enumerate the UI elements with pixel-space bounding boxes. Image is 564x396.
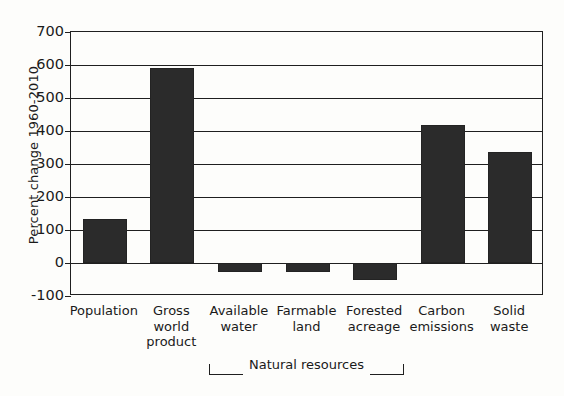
x-tick-label: Farmable land [269, 303, 345, 334]
y-tick-label: 700 [2, 23, 64, 39]
bar [353, 263, 397, 280]
x-tick-label: Forested acreage [336, 303, 412, 334]
gridline [71, 164, 542, 165]
y-tick-mark [65, 263, 71, 264]
gridline [71, 230, 542, 231]
bar [286, 263, 330, 272]
y-tick-label: 0 [2, 254, 64, 270]
bar [83, 219, 127, 263]
y-tick-label: 400 [2, 122, 64, 138]
natural-resources-bracket: Natural resources [209, 357, 404, 375]
bar [218, 263, 262, 272]
x-tick-label: Available water [201, 303, 277, 334]
y-tick-label: -100 [2, 287, 64, 303]
y-tick-label: 100 [2, 221, 64, 237]
y-tick-mark [65, 32, 71, 33]
bar [488, 152, 532, 263]
y-tick-label: 500 [2, 89, 64, 105]
y-axis-ticks: 7006005004003002001000-100 [0, 31, 64, 295]
y-tick-mark [65, 296, 71, 297]
x-tick-label: Carbon emissions [404, 303, 480, 334]
gridline [71, 131, 542, 132]
y-tick-label: 300 [2, 155, 64, 171]
chart-figure: Percent change 1960-2010 700600500400300… [0, 0, 564, 396]
bar [421, 125, 465, 263]
bar [150, 68, 194, 263]
gridline [71, 98, 542, 99]
y-tick-mark [65, 131, 71, 132]
y-tick-mark [65, 197, 71, 198]
y-tick-mark [65, 164, 71, 165]
y-tick-mark [65, 65, 71, 66]
x-tick-label: Gross world product [134, 303, 210, 350]
y-tick-label: 600 [2, 56, 64, 72]
y-tick-mark [65, 230, 71, 231]
y-tick-mark [65, 98, 71, 99]
x-tick-label: Population [66, 303, 142, 319]
gridline [71, 65, 542, 66]
x-tick-label: Solid waste [471, 303, 547, 334]
y-tick-label: 200 [2, 188, 64, 204]
gridline [71, 197, 542, 198]
group-label: Natural resources [209, 357, 404, 372]
plot-area [70, 31, 543, 295]
